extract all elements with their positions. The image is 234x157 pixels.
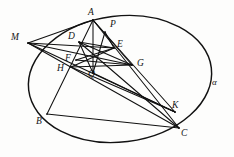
label-H: H (57, 64, 64, 74)
label-D: D (68, 32, 75, 42)
label-G: G (137, 59, 144, 69)
vertex-P (104, 31, 106, 33)
vertex-E (113, 47, 115, 49)
label-Q: Q (88, 70, 95, 80)
geometry-figure: APMDEFGHQKαBC (0, 0, 234, 157)
vertex-F (75, 59, 77, 61)
vertex-G (131, 64, 133, 66)
label-B: B (36, 117, 42, 127)
segment-H-K (71, 67, 175, 112)
vertex-A (92, 19, 94, 21)
segment-D-G (79, 42, 132, 65)
segment-layer (28, 20, 179, 128)
vertex-D (78, 41, 80, 43)
vertex-K (174, 111, 176, 113)
label-A: A (88, 8, 94, 18)
segment-H-G (71, 65, 132, 67)
segment-A-C (93, 20, 179, 128)
segment-P-E (105, 32, 114, 48)
vertex-M (27, 42, 29, 44)
label-alpha: α (212, 78, 217, 87)
segment-D-C (79, 42, 179, 128)
vertex-H (70, 66, 72, 68)
segment-Q-K (93, 73, 175, 112)
label-P: P (110, 20, 116, 30)
label-K: K (172, 101, 178, 111)
geometry-canvas (0, 0, 234, 157)
label-E: E (117, 40, 123, 50)
label-F: F (65, 54, 71, 64)
label-M: M (11, 33, 19, 43)
label-C: C (181, 129, 187, 139)
segment-B-C (47, 114, 179, 128)
vertex-C (178, 127, 180, 129)
vertex-B (46, 113, 48, 115)
conic-alpha (21, 5, 219, 152)
conic-layer (21, 5, 219, 152)
segment-M-C (28, 43, 179, 128)
